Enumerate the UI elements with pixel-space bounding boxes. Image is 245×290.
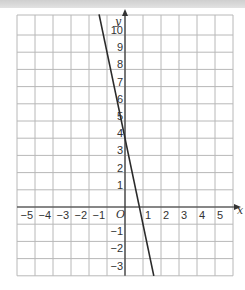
x-tick-label: 3 <box>181 209 187 221</box>
y-tick-label: 4 <box>117 127 123 139</box>
x-tick-label: −4 <box>38 209 51 221</box>
y-axis-label: y <box>114 15 122 28</box>
x-tick-label: −2 <box>74 209 87 221</box>
x-tick-label: 2 <box>163 209 169 221</box>
x-tick-label: 1 <box>145 209 151 221</box>
axes <box>17 9 241 276</box>
y-tick-label: 7 <box>117 76 123 88</box>
y-tick-label: −3 <box>110 260 123 272</box>
coordinate-grid-chart: −5−4−3−2−112345−3−2−112345678910 x y O <box>0 0 245 290</box>
y-tick-label: 3 <box>117 144 123 156</box>
x-tick-label: −1 <box>92 209 105 221</box>
y-tick-label: 2 <box>117 162 123 174</box>
y-tick-label: −2 <box>110 242 123 254</box>
x-tick-label: −5 <box>20 209 33 221</box>
x-tick-label: −3 <box>56 209 69 221</box>
x-axis-label: x <box>237 204 244 217</box>
x-tick-label: 5 <box>217 209 223 221</box>
y-tick-label: 8 <box>117 58 123 70</box>
origin-label: O <box>116 208 125 221</box>
x-tick-label: 4 <box>199 209 205 221</box>
y-tick-label: 1 <box>117 179 123 191</box>
y-axis-arrow-icon <box>122 9 128 16</box>
y-tick-label: −1 <box>110 225 123 237</box>
y-tick-label: 9 <box>117 41 123 53</box>
tick-labels: −5−4−3−2−112345−3−2−112345678910 <box>20 24 223 272</box>
